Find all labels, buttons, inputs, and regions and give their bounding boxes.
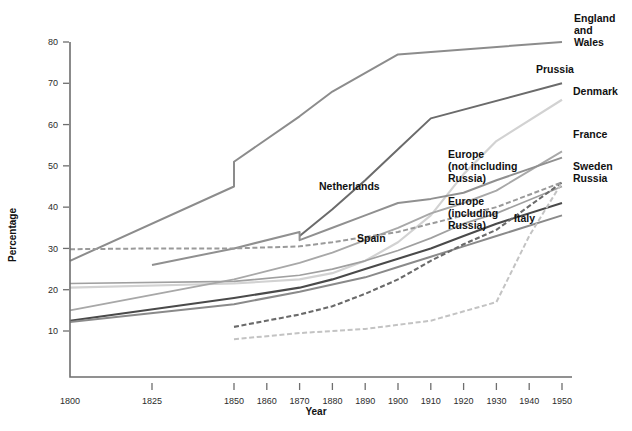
y-axis-tick-label: 70 (48, 78, 58, 88)
y-axis-tick-label: 80 (48, 37, 58, 47)
y-axis-title: Percentage (7, 208, 18, 262)
chart-container: 1020304050607080180018251850186018701880… (0, 0, 632, 431)
x-axis-tick-label: 1870 (290, 396, 310, 406)
series-line-england-and-wales (70, 42, 562, 261)
x-axis-tick-label: 1850 (224, 396, 244, 406)
x-axis-tick-label: 1860 (257, 396, 277, 406)
x-axis-tick-label: 1825 (142, 396, 162, 406)
label-line: Russia) (448, 219, 486, 231)
x-axis-tick-label: 1920 (454, 396, 474, 406)
label-line: Russia (573, 172, 608, 184)
x-axis-tick-label: 1940 (519, 396, 539, 406)
x-axis-tick-label: 1930 (486, 396, 506, 406)
netherlands-label: Netherlands (319, 180, 380, 192)
series-labels-layer: EnglandandWalesPrussiaDenmarkFranceSwede… (319, 12, 618, 244)
spain-label: Spain (357, 232, 386, 244)
x-axis-title: Year (305, 406, 326, 417)
label-line: Europe (448, 148, 484, 160)
series-line-spain (70, 215, 562, 322)
sweden-russia-label: SwedenRussia (573, 160, 613, 184)
line-chart-svg: 1020304050607080180018251850186018701880… (0, 0, 632, 431)
x-axis-tick-label: 1800 (60, 396, 80, 406)
prussia-label: Prussia (536, 63, 574, 75)
x-axis-tick-label: 1950 (552, 396, 572, 406)
denmark-label: Denmark (573, 85, 618, 97)
label-line: Denmark (573, 85, 618, 97)
label-line: and (574, 24, 593, 36)
y-axis-tick-label: 30 (48, 244, 58, 254)
label-line: Russia) (448, 172, 486, 184)
ticks-layer: 1020304050607080180018251850186018701880… (48, 37, 572, 406)
label-line: Spain (357, 232, 386, 244)
x-axis-tick-label: 1900 (388, 396, 408, 406)
y-axis-tick-label: 50 (48, 161, 58, 171)
y-axis-tick-label: 20 (48, 285, 58, 295)
label-line: Prussia (536, 63, 574, 75)
italy-label: Italy (514, 212, 535, 224)
france-label: France (573, 128, 608, 140)
series-line-europe-including-russia (70, 203, 562, 321)
label-line: Europe (448, 195, 484, 207)
x-axis-tick-label: 1910 (421, 396, 441, 406)
england-wales-label: EnglandandWales (574, 12, 615, 48)
label-line: Wales (574, 36, 604, 48)
y-axis-tick-label: 10 (48, 326, 58, 336)
x-axis-tick-label: 1890 (355, 396, 375, 406)
y-axis-tick-label: 40 (48, 202, 58, 212)
series-layer (70, 42, 562, 339)
label-line: France (573, 128, 608, 140)
label-line: (not including (448, 160, 517, 172)
label-line: Italy (514, 212, 535, 224)
label-line: England (574, 12, 615, 24)
label-line: Sweden (573, 160, 613, 172)
europe-not-russia-label: Europe(not includingRussia) (448, 148, 517, 184)
y-axis-tick-label: 60 (48, 120, 58, 130)
label-line: Netherlands (319, 180, 380, 192)
label-line: (including (448, 207, 498, 219)
x-axis-tick-label: 1880 (322, 396, 342, 406)
